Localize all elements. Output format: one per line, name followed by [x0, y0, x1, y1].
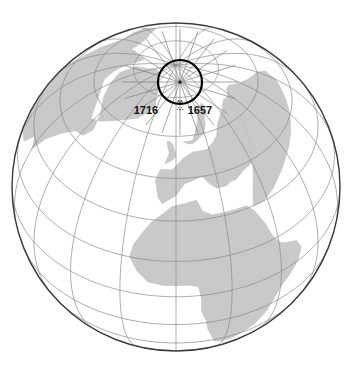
label-right-value: 1657 — [188, 104, 212, 116]
label-left-value: 1716 — [134, 104, 158, 116]
globe-figure-canvas: ʌʌ ∴∴ 1716 1657 — [0, 0, 355, 365]
north-pole-dot — [178, 80, 181, 83]
polar-tick-mark-lower: ∴∴ — [177, 105, 183, 111]
globe-svg: ʌʌ ∴∴ 1716 1657 — [0, 0, 355, 365]
polar-tick-mark-upper: ʌʌ — [177, 98, 183, 104]
